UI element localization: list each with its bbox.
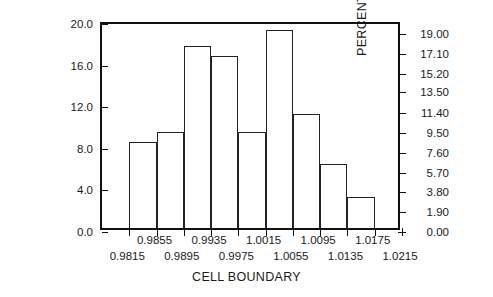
- x-tick: [129, 228, 130, 236]
- y-tick-label-right: 1.90: [409, 206, 449, 218]
- x-tick-label: 1.0135: [328, 250, 363, 262]
- x-tick-label: 0.9935: [191, 234, 226, 246]
- y-tick-label-right: 17.10: [409, 48, 449, 60]
- y-tick-left: [102, 232, 108, 233]
- histogram-bar: [184, 46, 211, 228]
- x-tick-label: 1.0095: [301, 234, 336, 246]
- y-tick-right: [398, 153, 406, 154]
- y-tick-right: [398, 192, 406, 193]
- y-tick-right: [398, 212, 406, 213]
- y-tick-right: [398, 113, 406, 114]
- y-tick-right: [398, 54, 406, 55]
- histogram-bar: [157, 132, 184, 228]
- x-tick: [402, 228, 403, 236]
- y-tick-right: [398, 92, 406, 93]
- y-tick-label-left: 12.0: [71, 101, 93, 113]
- y-tick-label-right: 7.60: [409, 147, 449, 159]
- y-tick-label-right: 0.00: [409, 226, 449, 238]
- y-tick-left: [102, 107, 108, 108]
- y-tick-right: [398, 34, 406, 35]
- y-tick-left: [102, 66, 108, 67]
- histogram-bar: [211, 56, 238, 228]
- x-tick-label: 0.9815: [110, 250, 145, 262]
- y-tick-right: [398, 173, 406, 174]
- y-tick-right: [398, 74, 406, 75]
- y-tick-left: [102, 190, 108, 191]
- y-tick-label-right: 19.00: [409, 28, 449, 40]
- x-axis-label: CELL BOUNDARY: [0, 270, 493, 284]
- y-tick-label-left: 4.0: [77, 184, 93, 196]
- y-tick-label-right: 9.50: [409, 127, 449, 139]
- y-tick-label-right: 15.20: [409, 68, 449, 80]
- y-tick-label-left: 16.0: [71, 60, 93, 72]
- x-tick-label: 1.0015: [246, 234, 281, 246]
- x-tick-label: 1.0215: [382, 250, 417, 262]
- y-tick-label-right: 5.70: [409, 167, 449, 179]
- x-tick-label: 1.0175: [355, 234, 390, 246]
- x-tick: [238, 228, 239, 236]
- histogram-bar: [347, 197, 374, 228]
- y-tick-left: [102, 149, 108, 150]
- x-tick-label: 1.0055: [273, 250, 308, 262]
- y-tick-label-left: 8.0: [77, 143, 93, 155]
- x-tick: [293, 228, 294, 236]
- y-tick-label-right: 11.40: [409, 107, 449, 119]
- y-tick-label-right: 13.50: [409, 86, 449, 98]
- histogram-bar: [266, 30, 293, 228]
- x-tick-label: 0.9855: [137, 234, 172, 246]
- x-tick: [347, 228, 348, 236]
- bars-group: [102, 24, 398, 228]
- y-tick-label-left: 20.0: [71, 18, 93, 30]
- histogram-bar: [320, 164, 347, 228]
- x-tick: [184, 228, 185, 236]
- y-tick-right: [398, 133, 406, 134]
- histogram-bar: [238, 132, 265, 228]
- histogram-bar: [129, 142, 156, 228]
- y-tick-label-right: 3.80: [409, 186, 449, 198]
- y-tick-left: [102, 24, 108, 25]
- y-tick-label-left: 0.0: [77, 226, 93, 238]
- histogram-bar: [293, 114, 320, 228]
- histogram-figure: CELL FREQUENCY PERCENT CELL BOUNDARY 0.0…: [0, 0, 493, 297]
- x-tick-label: 0.9895: [164, 250, 199, 262]
- x-tick-label: 0.9975: [219, 250, 254, 262]
- plot-area: 0.04.08.012.016.020.0 0.001.903.805.707.…: [100, 22, 400, 230]
